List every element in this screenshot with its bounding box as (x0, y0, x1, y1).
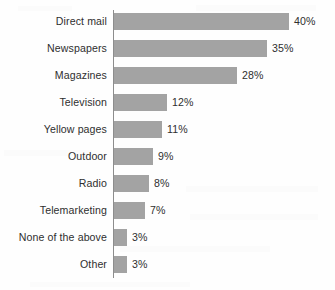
bar (114, 229, 127, 246)
value-label: 35% (272, 40, 294, 57)
category-label: Radio (0, 175, 107, 192)
bar-row: Yellow pages11% (0, 121, 335, 138)
value-label: 9% (158, 148, 174, 165)
category-label: None of the above (0, 229, 107, 246)
bar-row: Radio8% (0, 175, 335, 192)
bar-row: None of the above3% (0, 229, 335, 246)
bar (114, 175, 149, 192)
value-label: 28% (242, 67, 264, 84)
bar-row: Direct mail40% (0, 13, 335, 30)
plot-area: Direct mail40%Newspapers35%Magazines28%T… (0, 0, 335, 290)
bar (114, 13, 289, 30)
bar (114, 121, 162, 138)
value-label: 11% (167, 121, 188, 138)
value-label: 3% (132, 256, 148, 273)
category-label: Telemarketing (0, 202, 107, 219)
bar (114, 40, 267, 57)
value-label: 3% (132, 229, 148, 246)
bar (114, 202, 145, 219)
category-label: Other (0, 256, 107, 273)
value-label: 8% (154, 175, 170, 192)
category-label: Direct mail (0, 13, 107, 30)
bar-chart: Direct mail40%Newspapers35%Magazines28%T… (0, 0, 335, 290)
bar (114, 67, 237, 84)
category-label: Television (0, 94, 107, 111)
value-label: 7% (150, 202, 166, 219)
bar-row: Newspapers35% (0, 40, 335, 57)
bar-row: Television12% (0, 94, 335, 111)
bar (114, 256, 127, 273)
bar-row: Other3% (0, 256, 335, 273)
category-label: Newspapers (0, 40, 107, 57)
bar-row: Telemarketing7% (0, 202, 335, 219)
bar-row: Magazines28% (0, 67, 335, 84)
bar-row: Outdoor9% (0, 148, 335, 165)
value-label: 40% (294, 13, 316, 30)
bar (114, 148, 153, 165)
bar (114, 94, 167, 111)
category-label: Magazines (0, 67, 107, 84)
category-label: Yellow pages (0, 121, 107, 138)
value-label: 12% (172, 94, 194, 111)
category-label: Outdoor (0, 148, 107, 165)
